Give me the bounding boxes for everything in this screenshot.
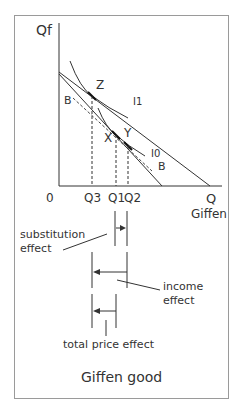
compensated-budget-label-right: B bbox=[158, 160, 166, 173]
total-price-effect-label: total price effect bbox=[63, 338, 154, 351]
diagram-title: Giffen good bbox=[81, 369, 162, 385]
point-y-label: Y bbox=[124, 126, 131, 140]
origin-label: 0 bbox=[46, 191, 54, 205]
compensated-budget-label-left: B bbox=[64, 94, 72, 107]
income-effect-line2: effect bbox=[163, 294, 203, 308]
x-axis-sublabel: Giffen bbox=[191, 207, 227, 221]
substitution-effect-line1: substitution bbox=[20, 228, 85, 242]
x-axis-label: Q bbox=[206, 191, 216, 206]
indifference-i0-label: I0 bbox=[151, 148, 160, 159]
income-effect-label: income effect bbox=[163, 280, 203, 308]
compensated-budget-line bbox=[73, 98, 152, 171]
substitution-effect-label: substitution effect bbox=[20, 228, 85, 256]
income-leader bbox=[117, 280, 160, 290]
tick-q1: Q1 bbox=[108, 191, 125, 205]
budget-line-original bbox=[59, 72, 210, 186]
substitution-effect-line2: effect bbox=[20, 242, 85, 256]
subst-arrowhead-icon bbox=[120, 225, 126, 231]
income-arrowhead-icon bbox=[93, 269, 100, 275]
income-effect-line1: income bbox=[163, 280, 203, 294]
point-z-label: Z bbox=[96, 78, 104, 92]
total-arrowhead-icon bbox=[93, 308, 100, 314]
tick-q3: Q3 bbox=[84, 191, 101, 205]
y-axis-label: Qf bbox=[36, 22, 52, 38]
point-x-label: X bbox=[104, 131, 112, 145]
indifference-i1-label: I1 bbox=[133, 96, 142, 107]
tick-q2: Q2 bbox=[124, 191, 141, 205]
